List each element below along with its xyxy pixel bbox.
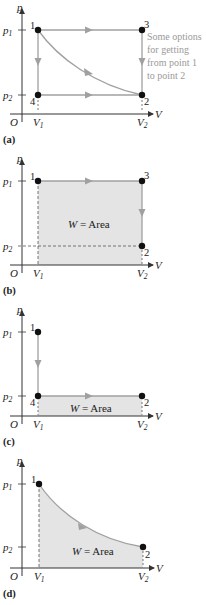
caption-d: (d) (3, 588, 16, 600)
point-4 (35, 393, 41, 399)
point-2-label: 2 (145, 549, 150, 560)
point-4-label: 4 (30, 96, 36, 107)
p-axis-label: p (16, 454, 23, 466)
v1-label: V1 (34, 570, 44, 584)
v2-label: V2 (137, 116, 148, 130)
v-axis-label: V (155, 410, 163, 422)
svg-text:to point 2: to point 2 (147, 70, 185, 81)
caption-c: (c) (3, 436, 15, 448)
point-1-label: 1 (30, 20, 35, 31)
point-3-label: 3 (144, 19, 149, 30)
point-1 (35, 27, 41, 33)
p1-label: p1 (2, 478, 12, 492)
arrow-icon (84, 68, 93, 76)
p-axis-label: p (16, 152, 23, 164)
svg-text:for getting: for getting (147, 44, 189, 55)
path-1-3 (38, 27, 142, 34)
p1-label: p1 (2, 175, 12, 189)
p2-label: p2 (2, 89, 13, 103)
v-axis-label: V (155, 108, 163, 120)
v-axis-label: V (155, 259, 163, 271)
v2-label: V2 (138, 570, 149, 584)
v2-label: V2 (137, 418, 148, 432)
v1-label: V1 (33, 116, 43, 130)
point-1 (35, 178, 41, 184)
point-4 (35, 92, 41, 98)
annotation-note: Some options for getting from point 1 to… (147, 31, 202, 81)
path-1-4 (35, 30, 42, 95)
arrow-down-icon (35, 58, 42, 66)
arrow-right-icon (85, 92, 93, 99)
point-2-label: 2 (144, 96, 149, 107)
path-1-2-curve (38, 30, 142, 95)
origin-label: O (10, 116, 18, 128)
p1-label: p1 (2, 24, 12, 38)
origin-label: O (10, 267, 18, 279)
p-axis-label: p (16, 303, 23, 315)
caption-a: (a) (3, 134, 16, 146)
p2-label: p2 (2, 541, 13, 555)
arrow-down-icon (139, 58, 146, 66)
point-1-label: 1 (31, 474, 36, 485)
point-2-label: 2 (144, 397, 149, 408)
p-axis-label: p (16, 1, 23, 13)
svg-text:Some options: Some options (147, 31, 202, 42)
point-1 (36, 481, 42, 487)
point-3-label: 3 (144, 170, 149, 181)
v1-label: V1 (33, 418, 43, 432)
v2-label: V2 (137, 267, 148, 281)
origin-label: O (10, 570, 18, 582)
path-3-2 (139, 30, 146, 95)
point-4-label: 4 (30, 397, 36, 408)
point-2-label: 2 (144, 247, 149, 258)
caption-b: (b) (3, 285, 16, 297)
origin-label: O (10, 418, 18, 430)
area-label: W = Area (72, 545, 114, 557)
panel-d: p V O p1 p2 V1 V2 1 2 W = Area (d) (0, 453, 206, 605)
panel-a: p V O p1 p2 V1 V2 1 3 4 2 Some options f… (0, 0, 206, 150)
path-1-4 (35, 332, 42, 396)
point-1 (35, 329, 41, 335)
svg-text:from point 1: from point 1 (147, 57, 197, 68)
path-4-2 (38, 92, 142, 99)
v-axis-label: V (156, 562, 164, 574)
area-label: W = Area (70, 402, 112, 414)
area-label: W = Area (68, 218, 110, 230)
panel-b: p V O p1 p2 V1 V2 1 3 2 W = Area (b) (0, 151, 206, 301)
p1-label: p1 (2, 326, 12, 340)
panel-c: p V O p1 p2 V1 V2 1 4 2 W = Area (c) (0, 302, 206, 452)
point-1-label: 1 (30, 322, 35, 333)
p2-label: p2 (2, 390, 13, 404)
v1-label: V1 (33, 267, 43, 281)
arrow-right-icon (85, 27, 93, 34)
point-1-label: 1 (30, 171, 35, 182)
arrow-down-icon (35, 360, 42, 368)
p2-label: p2 (2, 240, 13, 254)
